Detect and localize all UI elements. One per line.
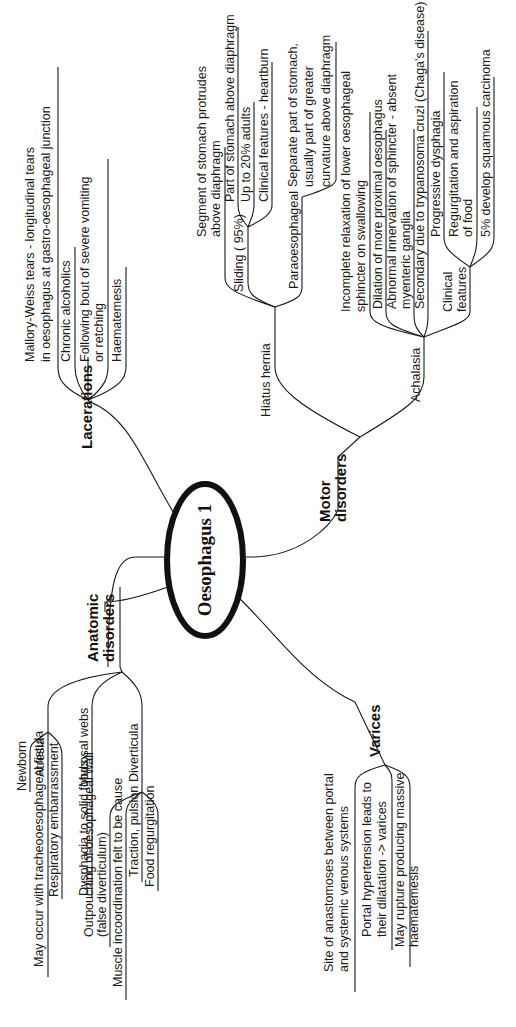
clinical-label-line1: Clinical	[441, 272, 455, 312]
branch-lacerations: Lacerations Mallory-Weiss tears - longit…	[23, 67, 126, 449]
ach-item4: Secondary due to trypanosoma cruzi (Chag…	[413, 2, 427, 309]
diverticula-label: Diverticula	[127, 724, 141, 782]
lac-item3-line2: or retching	[92, 303, 106, 362]
achalasia-label: Achalasia	[409, 348, 423, 402]
lac-item1-line1: Mallory-Weiss tears - longitudinal tears	[23, 147, 37, 362]
var-item3-line2: haematemesis	[407, 866, 421, 947]
var-item2-line2: their dilatation -> varices	[375, 801, 389, 937]
clin-item3: 5% develop squamous carcinoma	[479, 49, 493, 237]
sliding-label: Sliding ( 95%)	[232, 214, 246, 292]
para-item1-line1: Separate part of stomach,	[286, 43, 300, 187]
para-item1-line3: curvature above diaphragm	[319, 35, 333, 187]
branch-anatomic: Anatomic disorders Atresia Newborn May o…	[15, 587, 158, 1000]
anatomic-label-line2: disorders	[100, 594, 117, 662]
ach-item3-line2: myenteric ganglia	[399, 211, 413, 309]
div-item1-line2: (false diverticulum)	[95, 832, 109, 937]
mind-map-canvas: Oesophagus 1 Lacerations Mallory-Weiss t…	[0, 0, 516, 1027]
clin-item2-line1: Regurgitation and aspiration	[447, 81, 461, 237]
var-item3-line1: May rupture producing massive	[393, 773, 407, 947]
branch-varices: Varices Site of anastomoses between port…	[322, 702, 421, 992]
div-item4: Food regurgitation	[143, 785, 157, 887]
sliding-item2: Up to 20% adults	[239, 107, 253, 202]
clinical-label-line2: features	[455, 267, 469, 312]
lac-item3-line1: Following bout of severe vomiting	[78, 176, 92, 362]
clin-item2-line2: of food	[461, 199, 475, 237]
ach-item1-line1: Incomplete relaxation of lower oesophage…	[339, 71, 353, 312]
clin-item1: Progressive dysphagia	[429, 110, 443, 237]
sliding-item3: Clinical features - heartburn	[257, 48, 271, 202]
motor-label-line2: disorders	[332, 454, 349, 522]
sliding-item1: Part of stomach above diaphragm	[223, 14, 237, 202]
lac-item1-line2: in oesophagus at gastro-oesophageal junc…	[39, 106, 53, 362]
div-item3: Traction, pulsion	[127, 786, 141, 877]
hiatus-item1-line2: above diaphragm	[209, 140, 223, 237]
atresia-item1: Newborn	[15, 741, 29, 791]
div-item1-line1: Outpouching of oesophageal wall	[82, 752, 96, 937]
center-node: Oesophagus 1	[167, 484, 243, 636]
center-label: Oesophagus 1	[194, 504, 215, 616]
clin-item2-link	[470, 107, 477, 267]
branch-motor: Motor disorders Hiatus hernia Segment of…	[195, 2, 494, 522]
lac-item4: Haematemesis	[110, 279, 124, 362]
webs-link	[92, 672, 122, 792]
motor-label-line1: Motor	[316, 480, 333, 522]
paraoesophageal-label: Paraoesophageal	[287, 191, 301, 289]
ach-item2: Dilation of more proximal oesophagus	[371, 99, 385, 309]
connector-lacerations	[88, 400, 175, 515]
var-item1-line2: and systemic venous systems	[337, 806, 351, 972]
hiatus-link	[275, 307, 360, 437]
anatomic-label-line1: Anatomic	[84, 594, 101, 662]
var-item2-line1: Portal hypertension leads to	[360, 782, 374, 937]
lacerations-label: Lacerations	[78, 365, 95, 449]
atresia-item3: Respiratory embarrassment	[47, 742, 61, 897]
connector-varices	[238, 597, 355, 702]
mind-map-stage: Oesophagus 1 Lacerations Mallory-Weiss t…	[0, 0, 516, 1027]
ach-item3-line1: Abnormal innervation of sphincter - abse…	[385, 74, 399, 309]
hiatus-item1-line1: Segment of stomach protrudes	[195, 66, 209, 237]
atresia-item2: May occur with tracheooesophageal fistul…	[32, 731, 46, 967]
sliding-link	[248, 227, 275, 307]
ach-item1-line2: sphincter on swallowing	[354, 180, 368, 312]
var-item1-line1: Site of anastomoses between portal	[322, 773, 336, 972]
hiatus-label: Hiatus hernia	[259, 343, 273, 417]
connector-anatomic	[108, 557, 168, 667]
div-item2: Muscle incoordination felt to be cause	[111, 778, 125, 987]
para-item1-line2: usually part of greater	[302, 66, 316, 187]
lac-item2: Chronic alcoholics	[59, 261, 73, 362]
